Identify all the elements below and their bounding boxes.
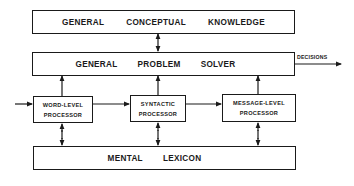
- general-problem-solver-box: GENERAL PROBLEM SOLVER: [32, 52, 295, 76]
- syntactic-processor-box: SYNTACTIC PROCESSOR: [130, 95, 186, 122]
- word-level-processor-label: WORD-LEVEL PROCESSOR: [43, 100, 84, 120]
- syntactic-processor-label: SYNTACTIC PROCESSOR: [139, 99, 177, 119]
- decisions-label: DECISIONS: [297, 54, 327, 60]
- message-level-processor-label: MESSAGE-LEVEL PROCESSOR: [233, 98, 285, 118]
- general-conceptual-knowledge-box: GENERAL CONCEPTUAL KNOWLEDGE: [32, 10, 295, 34]
- message-level-processor-box: MESSAGE-LEVEL PROCESSOR: [222, 94, 296, 122]
- problem-solver-label: GENERAL PROBLEM SOLVER: [75, 60, 235, 69]
- word-level-processor-box: WORD-LEVEL PROCESSOR: [33, 96, 93, 123]
- mental-lexicon-label: MENTAL LEXICON: [108, 154, 202, 163]
- conceptual-knowledge-label: GENERAL CONCEPTUAL KNOWLEDGE: [62, 18, 265, 27]
- mental-lexicon-box: MENTAL LEXICON: [33, 146, 296, 170]
